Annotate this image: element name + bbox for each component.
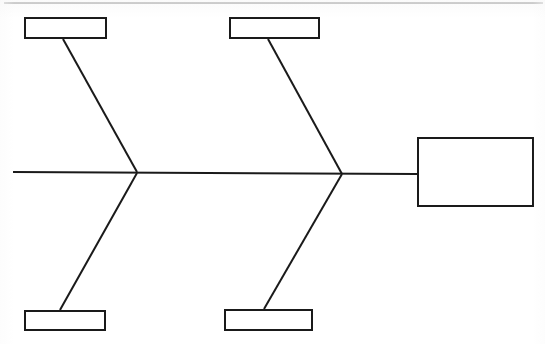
bone-line-bottom-right — [264, 174, 342, 309]
category-box-top-left[interactable] — [25, 18, 106, 38]
fishbone-diagram-canvas — [0, 0, 545, 344]
bone-line-top-left — [63, 39, 137, 172]
spine-line — [13, 172, 417, 174]
bone-line-bottom-left — [60, 173, 137, 310]
effect-box[interactable] — [418, 138, 533, 206]
bone-line-top-right — [268, 39, 342, 174]
category-box-top-right[interactable] — [230, 18, 319, 38]
fishbone-diagram-graphic — [0, 0, 545, 344]
category-box-bottom-right[interactable] — [225, 310, 312, 330]
category-box-bottom-left[interactable] — [25, 311, 105, 330]
